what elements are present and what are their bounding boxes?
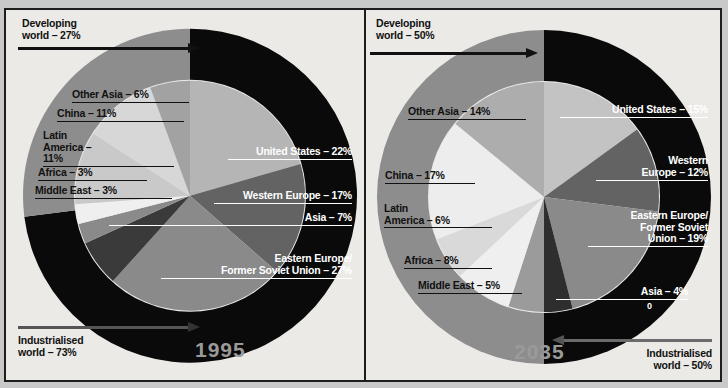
latin-america-leader-2035: [384, 227, 492, 228]
united-states-leader-1995: [228, 159, 352, 160]
developing-world-line1-2035: Developing: [376, 17, 431, 29]
eastern-europe-line1-2035: Eastern Europe/: [630, 209, 708, 221]
latin-america-label-2035: Latin America – 6%: [384, 203, 450, 226]
china-label-2035: China – 17%: [385, 170, 445, 182]
developing-world-arrow-2035: [370, 48, 540, 58]
other-asia-label-2035: Other Asia – 14%: [408, 106, 490, 118]
eastern-europe-line2-2035: Former Soviet: [640, 221, 708, 233]
middle-east-leader-1995: [35, 198, 172, 199]
industrialised-world-label-1995: Industrialised world – 73%: [18, 335, 83, 358]
middle-east-leader-2035: [418, 293, 522, 294]
middle-east-label-1995: Middle East – 3%: [35, 185, 117, 197]
industrialised-world-line2: world – 73%: [18, 346, 77, 358]
western-europe-leader-2035: [596, 180, 708, 181]
latin-america-label-1995: Latin America – 11%: [43, 130, 91, 165]
asia-leader-1995: [109, 225, 352, 226]
developing-world-line2-2035: world – 50%: [376, 29, 435, 41]
latin-america-line3: 11%: [43, 152, 63, 164]
asia-leader-2035: [556, 299, 688, 300]
africa-leader-2035: [404, 268, 492, 269]
other-asia-leader-1995: [72, 102, 189, 103]
africa-label-1995: Africa – 3%: [38, 167, 92, 179]
other-asia-label-1995: Other Asia – 6%: [72, 89, 149, 101]
middle-east-label-2035: Middle East – 5%: [418, 280, 500, 292]
western-europe-label-2035: Western Europe – 12%: [552, 155, 708, 178]
eastern-europe-line2: Former Soviet Union – 27%: [221, 264, 352, 276]
developing-world-label-1995: Developing world – 27%: [22, 18, 81, 41]
industrialised-world-line1: Industrialised: [18, 334, 83, 346]
latin-america-line2-2035: America – 6%: [384, 214, 450, 226]
eastern-europe-line3-2035: Union – 19%: [648, 232, 708, 244]
industrialised-world-line2-2035: world – 50%: [654, 359, 713, 371]
stray-zero-mark: 0: [647, 301, 652, 311]
western-europe-line1-2035: Western: [668, 154, 708, 166]
developing-world-line1: Developing: [22, 17, 77, 29]
industrialised-world-label-2035: Industrialised world – 50%: [552, 348, 712, 371]
western-europe-leader-1995: [214, 203, 352, 204]
latin-america-line1-2035: Latin: [384, 202, 408, 214]
eastern-europe-leader-2035: [588, 246, 708, 247]
chart-panel-1995: Developing world – 27% Industrialised wo…: [6, 10, 364, 380]
united-states-label-2035: United States – 15%: [550, 104, 708, 116]
eastern-europe-leader-1995: [161, 278, 352, 279]
china-label-1995: China – 11%: [57, 108, 116, 120]
latin-america-line1: Latin: [43, 129, 67, 141]
united-states-leader-2035: [560, 117, 708, 118]
africa-label-2035: Africa – 8%: [404, 255, 458, 267]
developing-world-line2: world – 27%: [22, 29, 81, 41]
chart-frame: Developing world – 27% Industrialised wo…: [4, 8, 722, 382]
industrialised-world-arrow-1995: [18, 322, 200, 332]
latin-america-line2: America –: [43, 141, 91, 153]
asia-label-1995: Asia – 7%: [192, 212, 352, 224]
africa-leader-1995: [38, 180, 147, 181]
developing-world-label-2035: Developing world – 50%: [376, 18, 435, 41]
industrialised-world-line1-2035: Industrialised: [647, 347, 712, 359]
united-states-label-1995: United States – 22%: [192, 146, 352, 158]
western-europe-label-1995: Western Europe – 17%: [192, 190, 352, 202]
chart-panel-2035: Developing world – 50% Industrialised wo…: [364, 10, 720, 380]
western-europe-line2-2035: Europe – 12%: [642, 166, 708, 178]
eastern-europe-label-1995: Eastern Europe/ Former Soviet Union – 27…: [166, 253, 352, 276]
year-label-2035: 2035: [514, 340, 565, 364]
other-asia-leader-2035: [408, 119, 526, 120]
year-label-1995: 1995: [195, 338, 246, 362]
developing-world-arrow-1995: [18, 43, 200, 53]
industrialised-world-arrow-2035: [552, 335, 712, 345]
china-leader-1995: [57, 121, 184, 122]
eastern-europe-label-2035: Eastern Europe/ Former Soviet Union – 19…: [544, 210, 708, 245]
eastern-europe-line1: Eastern Europe/: [274, 252, 352, 264]
pie-chart-2035: [364, 10, 720, 380]
china-leader-2035: [385, 183, 475, 184]
asia-label-2035: Asia – 4%: [544, 286, 688, 298]
figure-root: Developing world – 27% Industrialised wo…: [0, 0, 728, 388]
